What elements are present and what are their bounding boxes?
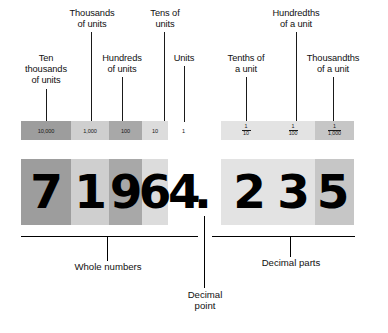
fraction-denominator: 1,000 <box>328 131 341 137</box>
pv-cell-label: 100 <box>121 128 130 134</box>
label-units: Units <box>160 53 208 64</box>
digit-6: 6 <box>138 159 171 225</box>
pv-cell-label: 1,000 <box>83 128 97 134</box>
decimal-parts-brace <box>212 236 355 237</box>
fraction-denominator: 100 <box>289 131 298 137</box>
leader-tenths <box>246 77 247 122</box>
pv-cell-units: 1 <box>182 128 185 134</box>
decimal-parts-brace-tick <box>290 236 291 257</box>
leader-thousands <box>91 32 92 122</box>
label-thousands-of-units: Thousands of units <box>41 8 143 30</box>
pv-cell-label: 10 <box>152 128 158 134</box>
leader-thousandths <box>333 77 334 122</box>
label-ten-thousands-of-units: Ten thousands of units <box>12 53 80 87</box>
fraction-one-hundredth: 1 100 <box>289 124 298 136</box>
pv-cell-hundreds: 100 <box>109 121 142 140</box>
decimal-place-value-bar: 1 10 1 100 1 1,000 <box>221 121 354 140</box>
whole-numbers-brace-tick <box>107 236 108 261</box>
digit-1: 1 <box>71 159 109 225</box>
pv-cell-ten-thousands: 10,000 <box>21 121 71 140</box>
digit-7: 7 <box>21 159 71 225</box>
leader-ten-thousands <box>46 89 47 122</box>
pv-cell-thousandths: 1 1,000 <box>315 121 354 140</box>
place-value-diagram: Thousands of units Tens of units Hundred… <box>0 0 388 333</box>
leader-hundredths <box>296 32 297 122</box>
label-tens-of-units: Tens of units <box>130 8 200 30</box>
label-whole-numbers: Whole numbers <box>52 261 164 272</box>
pv-cell-tenths: 1 10 <box>221 121 271 140</box>
leader-tens <box>164 32 165 122</box>
pv-cell-label: 10,000 <box>38 128 55 134</box>
decimal-point-leader <box>204 216 205 288</box>
digit-cell-thousands: 1 <box>71 159 109 225</box>
digit-cell-ten-thousands: 7 <box>21 159 71 225</box>
digit-cell-tenths: 2 <box>221 159 271 225</box>
label-hundreds-of-units: Hundreds of units <box>88 53 156 75</box>
digit-3: 3 <box>271 159 315 225</box>
digit-cell-hundredths: 3 <box>271 159 315 225</box>
decimal-point-glyph: . <box>192 159 214 225</box>
fraction-one-thousandth: 1 1,000 <box>328 124 341 136</box>
whole-place-value-bar: 10,000 1,000 100 10 <box>21 121 168 140</box>
digit-5: 5 <box>313 159 352 225</box>
pv-cell-hundredths: 1 100 <box>271 121 315 140</box>
whole-numbers-brace <box>21 236 198 237</box>
digit-2: 2 <box>224 159 274 225</box>
label-decimal-parts: Decimal parts <box>237 257 345 268</box>
fraction-denominator: 10 <box>243 131 249 137</box>
pv-cell-tens: 10 <box>142 121 168 140</box>
whole-number-band: 7 1 9 6 <box>21 159 168 225</box>
digit-cell-thousandths: 5 <box>315 159 354 225</box>
label-thousandths-of-a-unit: Thousandths of a unit <box>288 53 378 75</box>
leader-units <box>184 66 185 122</box>
fraction-one-tenth: 1 10 <box>242 124 251 136</box>
label-decimal-point: Decimal point <box>174 289 236 312</box>
label-tenths-of-a-unit: Tenths of a unit <box>212 53 280 75</box>
pv-cell-thousands: 1,000 <box>71 121 109 140</box>
label-hundredths-of-a-unit: Hundredths of a unit <box>243 8 349 30</box>
digit-cell-tens: 6 <box>142 159 168 225</box>
decimal-number-band: 2 3 5 <box>221 159 354 225</box>
leader-hundreds <box>122 77 123 122</box>
